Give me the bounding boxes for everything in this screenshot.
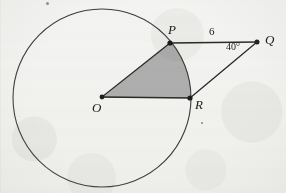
vertex-dot-P	[167, 40, 172, 45]
angle-label-q: 40°	[226, 42, 240, 52]
diagram-canvas	[0, 0, 286, 193]
vertex-dot-Q	[255, 40, 260, 45]
point-label-o: O	[92, 101, 101, 114]
point-label-q: Q	[265, 33, 274, 46]
geometry-figure: P Q R O 6 40°	[0, 0, 286, 193]
point-label-r: R	[195, 98, 203, 111]
segment-RQ	[190, 42, 257, 98]
vertex-dot-O	[100, 95, 105, 100]
length-label-pq: 6	[209, 26, 215, 37]
point-label-p: P	[168, 23, 176, 36]
vertex-dot-R	[187, 95, 192, 100]
segment-PQ	[170, 42, 257, 43]
